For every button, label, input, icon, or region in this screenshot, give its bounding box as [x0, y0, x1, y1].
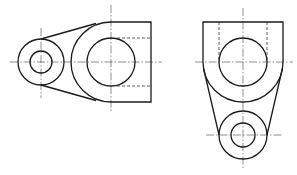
front-view	[10, 5, 162, 112]
left-tangent-line	[204, 68, 220, 135]
lower-tangent-line	[41, 85, 96, 101]
side-view	[195, 8, 293, 168]
right-tangent-line	[267, 68, 283, 135]
technical-drawing	[0, 0, 297, 175]
upper-tangent-line	[41, 24, 96, 40]
